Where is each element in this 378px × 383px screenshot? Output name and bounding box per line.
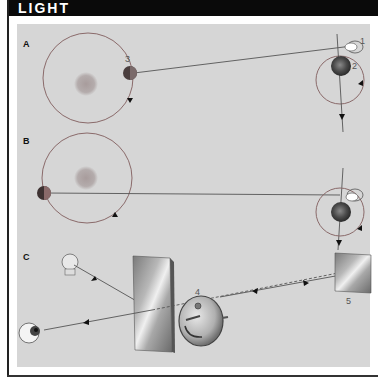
sun <box>74 72 98 96</box>
light-ray <box>134 46 352 73</box>
panel-b: B <box>23 133 364 250</box>
label-3: 3 <box>125 54 130 64</box>
path-arrow-b <box>336 240 342 246</box>
label-1: 1 <box>360 36 365 46</box>
light-ray-b <box>45 193 340 195</box>
toothed-wheel <box>179 296 228 346</box>
panel-a: A 3 1 2 <box>23 33 365 132</box>
panel-c: C 4 5 <box>19 252 371 353</box>
reflected-ray <box>152 273 338 310</box>
path-arrow <box>339 114 345 120</box>
label-5: 5 <box>346 296 351 306</box>
panel-a-label: A <box>23 39 30 49</box>
io-moon-b <box>346 193 358 201</box>
jupiter-b <box>331 202 351 222</box>
half-silvered-mirror <box>133 256 172 352</box>
eye-icon <box>19 323 40 343</box>
light-speed-diagram: A 3 1 2 B <box>0 0 378 383</box>
io-moon <box>345 43 357 51</box>
outgoing-ray <box>220 273 352 297</box>
moon-orbit-arrow <box>358 80 363 86</box>
label-2: 2 <box>352 61 357 71</box>
orbit-direction-arrow <box>127 98 133 103</box>
distant-mirror <box>335 253 371 293</box>
label-4: 4 <box>195 287 200 297</box>
panel-c-label: C <box>23 252 30 262</box>
jupiter <box>331 56 351 76</box>
sun-b <box>74 166 98 190</box>
light-bulb-icon <box>62 254 78 275</box>
panel-b-label: B <box>23 136 30 146</box>
